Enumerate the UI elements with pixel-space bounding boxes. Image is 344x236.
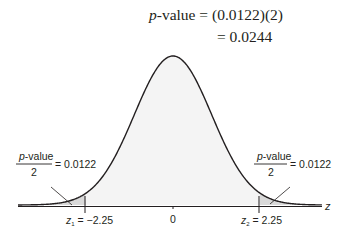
left-fraction-denominator: 2 <box>31 166 37 178</box>
right-fraction-denominator: 2 <box>268 166 274 178</box>
left-fraction-result: = 0.0122 <box>55 158 96 170</box>
curve-body-shading <box>86 56 260 205</box>
p-value-formula-line2: = 0.0244 <box>217 28 272 45</box>
z-axis-label: z <box>324 200 331 212</box>
right-fraction-numerator: p-value <box>256 150 292 162</box>
right-critical-label: z2 = 2.25 <box>240 214 282 227</box>
left-critical-label: z1 = −2.25 <box>65 214 113 227</box>
center-label: 0 <box>170 213 176 225</box>
right-fraction-result: = 0.0122 <box>290 158 331 170</box>
left-fraction-numerator: p-value <box>18 150 54 162</box>
normal-distribution-diagram: p-value = (0.0122)(2) = 0.0244 p-value 2… <box>0 0 344 236</box>
p-value-formula-line1: p-value = (0.0122)(2) <box>148 6 283 24</box>
